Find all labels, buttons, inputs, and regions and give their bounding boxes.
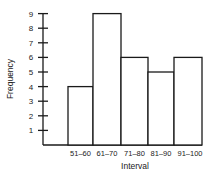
x-tick-label: 61–70: [97, 149, 118, 158]
x-tick-label: 51–60: [70, 149, 91, 158]
y-tick-label: 4: [29, 83, 34, 92]
y-tick-label: 3: [29, 97, 34, 106]
y-tick-label: 1: [29, 126, 34, 135]
y-tick-label: 5: [29, 68, 34, 77]
x-tick-label: 81–90: [151, 149, 172, 158]
x-axis-title: Interval: [121, 161, 149, 171]
x-tick-labels: 51–6061–7071–8081–9091–100: [70, 149, 202, 158]
y-tick-label: 2: [29, 112, 34, 121]
x-tick-label: 91–100: [177, 149, 202, 158]
histogram-bar: [174, 57, 202, 145]
y-ticks: 123456789: [29, 10, 48, 136]
x-tick-label: 71–80: [124, 149, 145, 158]
y-axis-title: Frequency: [5, 58, 15, 99]
histogram-chart: 123456789 51–6061–7071–8081–9091–100 Fre…: [0, 0, 218, 183]
bars: [68, 14, 202, 145]
y-tick-label: 8: [29, 24, 34, 33]
y-tick-label: 7: [29, 39, 34, 48]
histogram-bar: [93, 14, 121, 145]
histogram-bar: [148, 72, 174, 145]
y-tick-label: 9: [29, 10, 34, 19]
histogram-bar: [68, 87, 93, 145]
histogram-bar: [121, 57, 148, 145]
y-tick-label: 6: [29, 53, 34, 62]
